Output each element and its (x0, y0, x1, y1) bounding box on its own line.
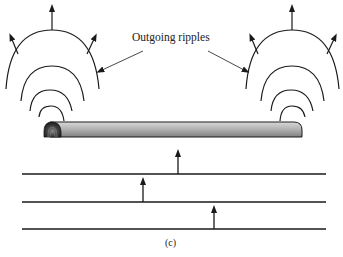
right-upright-arrow-icon (327, 37, 335, 54)
right-ripple-arc-2 (261, 66, 324, 101)
left-ripple-arc-4 (39, 106, 64, 121)
right-ripple-group (246, 8, 339, 121)
label-pointers (100, 51, 246, 71)
left-pointer-arrow-icon (100, 51, 143, 71)
figure-caption: (c) (165, 237, 176, 248)
outgoing-ripples-label: Outgoing ripples (132, 31, 210, 43)
left-ripple-arc-2 (21, 66, 84, 101)
wavefront-lines (22, 153, 326, 229)
left-ripple-group (6, 8, 99, 121)
right-ripple-arc-4 (280, 106, 305, 121)
left-upright-arrow-icon (87, 37, 95, 54)
right-ripple-arc-1 (246, 30, 339, 89)
rod (44, 122, 302, 137)
left-ripple-arc-3 (30, 90, 72, 111)
right-ripple-arc-3 (271, 90, 313, 111)
rod-end-cap (44, 122, 61, 137)
rod-body (50, 122, 302, 137)
left-ripple-arc-1 (6, 30, 99, 89)
ripple-diagram: Outgoing ripples (c) (0, 0, 343, 257)
right-pointer-arrow-icon (208, 51, 246, 71)
